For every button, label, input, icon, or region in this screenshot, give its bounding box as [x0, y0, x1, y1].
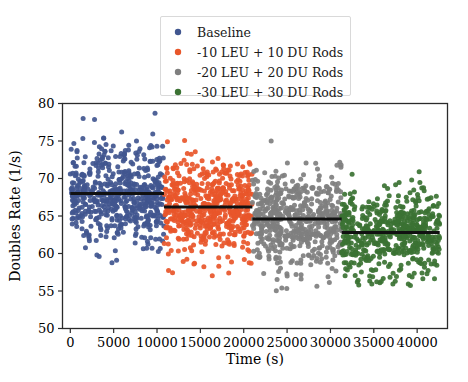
- data-point: [148, 159, 153, 164]
- y-tick-label: 60: [38, 246, 55, 261]
- data-point: [353, 273, 358, 278]
- data-point: [186, 196, 191, 201]
- data-point: [370, 274, 375, 279]
- data-point: [411, 235, 416, 240]
- legend-label[interactable]: Baseline: [197, 25, 251, 40]
- data-point: [181, 186, 186, 191]
- data-point: [414, 204, 419, 209]
- data-point: [162, 241, 167, 246]
- data-point: [356, 283, 361, 288]
- data-point: [356, 263, 361, 268]
- data-point: [426, 268, 431, 273]
- data-point: [217, 210, 222, 215]
- data-point: [282, 233, 287, 238]
- data-point: [200, 158, 205, 163]
- data-point: [385, 186, 390, 191]
- data-point: [366, 234, 371, 239]
- data-point: [244, 197, 249, 202]
- data-point: [290, 179, 295, 184]
- figure-container: 0500010000150002000025000300003500040000…: [0, 0, 468, 382]
- data-point: [251, 169, 256, 174]
- data-point: [325, 230, 330, 235]
- data-point: [341, 220, 346, 225]
- data-point: [310, 232, 315, 237]
- data-point: [154, 163, 159, 168]
- data-point: [275, 277, 280, 282]
- data-point: [112, 202, 117, 207]
- data-point: [182, 213, 187, 218]
- data-point: [191, 242, 196, 247]
- data-point: [221, 241, 226, 246]
- data-point: [395, 199, 400, 204]
- data-point: [395, 219, 400, 224]
- data-point: [164, 166, 169, 171]
- data-point: [81, 160, 86, 165]
- data-point: [301, 253, 306, 258]
- data-point: [191, 261, 196, 266]
- data-point: [98, 227, 103, 232]
- data-point: [430, 211, 435, 216]
- data-point: [216, 264, 221, 269]
- data-point: [111, 144, 116, 149]
- data-point: [92, 117, 97, 122]
- data-point: [284, 286, 289, 291]
- data-point: [242, 257, 247, 262]
- data-point: [122, 204, 127, 209]
- data-point: [144, 246, 149, 251]
- data-point: [109, 148, 114, 153]
- data-point: [330, 248, 335, 253]
- data-point: [212, 213, 217, 218]
- data-point: [411, 256, 416, 261]
- data-point: [73, 173, 78, 178]
- data-point: [134, 139, 139, 144]
- data-point: [277, 190, 282, 195]
- data-point: [432, 261, 437, 266]
- data-point: [95, 156, 100, 161]
- data-point: [75, 156, 80, 161]
- data-point: [213, 242, 218, 247]
- legend-label[interactable]: -20 LEU + 20 DU Rods: [197, 65, 343, 80]
- legend-label[interactable]: -30 LEU + 30 DU Rods: [197, 85, 343, 100]
- data-point: [171, 181, 176, 186]
- data-point: [143, 168, 148, 173]
- data-point: [342, 192, 347, 197]
- data-point: [329, 175, 334, 180]
- data-point: [119, 129, 124, 134]
- legend[interactable]: Baseline-10 LEU + 10 DU Rods-20 LEU + 20…: [161, 17, 351, 100]
- data-point: [359, 243, 364, 248]
- y-tick-label: 70: [38, 171, 55, 186]
- data-point: [168, 229, 173, 234]
- data-point: [187, 176, 192, 181]
- data-point: [298, 177, 303, 182]
- data-point: [216, 156, 221, 161]
- data-point: [310, 186, 315, 191]
- data-point: [333, 182, 338, 187]
- data-point: [81, 116, 86, 121]
- data-point: [247, 162, 252, 167]
- data-point: [265, 201, 270, 206]
- data-point: [182, 191, 187, 196]
- data-point: [258, 234, 263, 239]
- data-point: [97, 208, 102, 213]
- data-point: [235, 172, 240, 177]
- data-point: [393, 205, 398, 210]
- data-point: [397, 214, 402, 219]
- data-point: [115, 218, 120, 223]
- data-point: [171, 166, 176, 171]
- data-point: [381, 276, 386, 281]
- data-point: [273, 248, 278, 253]
- data-point: [186, 208, 191, 213]
- data-point: [424, 235, 429, 240]
- data-point: [399, 263, 404, 268]
- data-point: [121, 230, 126, 235]
- data-point: [71, 141, 76, 146]
- y-tick-label: 75: [38, 134, 55, 149]
- data-point: [253, 177, 258, 182]
- data-point: [338, 195, 343, 200]
- legend-label[interactable]: -10 LEU + 10 DU Rods: [197, 45, 343, 60]
- data-point: [180, 196, 185, 201]
- legend-marker-icon: [175, 69, 181, 75]
- data-point: [352, 251, 357, 256]
- data-point: [139, 201, 144, 206]
- data-point: [164, 235, 169, 240]
